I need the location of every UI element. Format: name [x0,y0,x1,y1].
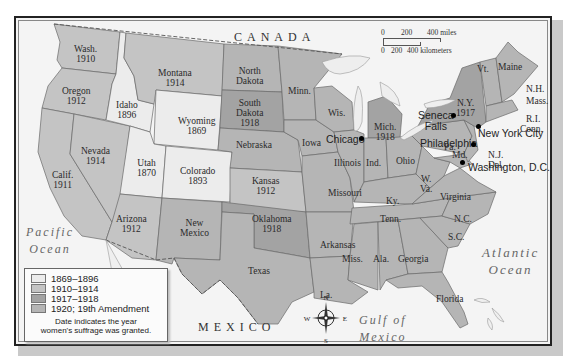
state-label-montana: Montana1914 [158,68,192,88]
city-label-seneca-falls: SenecaFalls [418,110,454,132]
state-label-idaho: Idaho1896 [116,100,138,120]
state-label-kansas: Kansas1912 [252,176,279,196]
state-label-wva: W.Va. [420,174,432,194]
state-label-mich: Mich.1918 [374,122,396,142]
state-label-md: Md. [452,150,468,160]
legend-swatch [31,294,46,303]
state-label-wash: Wash.1910 [74,44,97,64]
state-label-ala: Ala. [373,254,389,264]
ocean-label-pacific: Pacific Ocean [26,224,74,258]
state-label-colorado: Colorado1893 [180,166,215,186]
state-label-ind: Ind. [366,158,381,168]
lake-michigan [354,86,363,131]
svg-text:S: S [324,337,328,344]
svg-text:N: N [323,294,328,302]
state-label-nc: N.C. [454,214,472,224]
state-label-georgia: Georgia [398,254,428,264]
state-label-calif: Calif.1911 [52,170,73,190]
city-dot-washington-dc [460,160,465,165]
city-dot-new-york-city [476,124,481,129]
state-label-oregon: Oregon1912 [62,86,91,106]
state-label-minn: Minn. [288,86,311,96]
compass-rose-icon: N S E W [303,292,349,344]
state-label-ohio: Ohio [396,156,415,166]
state-label-ri: R.I. [526,114,540,124]
state-label-tenn: Tenn. [380,214,401,224]
state-label-arizona: Arizona1912 [116,214,147,234]
state-label-south-dakota: SouthDakota1918 [236,98,263,128]
city-dot-seneca-falls [451,113,456,118]
state-label-wyoming: Wyoming1869 [178,116,215,136]
ocean-label-atlantic: Atlantic Ocean [482,244,539,278]
legend-item: 1869–1896 [31,273,167,283]
legend-swatch [31,274,46,283]
city-dot-chicago [359,136,364,141]
state-label-utah: Utah1870 [137,158,156,178]
country-label-canada: CANADA [234,30,315,45]
city-label-washington-dc: Washington, D.C. [468,162,550,173]
state-label-north-dakota: NorthDakota [236,66,263,86]
state-label-nh: N.H. [526,84,544,94]
state-label-nebraska: Nebraska [236,140,272,150]
state-label-maine: Maine [498,62,522,72]
bahamas [474,298,504,330]
legend-item: 1920; 19th Amendment [31,303,167,313]
state-label-nevada: Nevada1914 [81,146,110,166]
legend-item: 1917–1918 [31,293,167,303]
state-label-missouri: Missouri [328,188,362,198]
state-label-vt: Vt. [477,64,489,74]
city-dot-philadelphia [471,142,476,147]
state-label-miss: Miss. [342,254,363,264]
state-label-nj: N.J. [488,150,503,160]
city-label-philadelphia: Philadelphia [420,138,477,149]
legend: 1869–1896 1910–1914 1917–1918 1920; 19th… [24,268,168,342]
ocean-label-gulf: Gulf of Mexico [359,312,407,346]
state-label-illinois: Illinois [334,158,361,168]
svg-text:E: E [343,315,347,323]
legend-swatch [31,284,46,293]
legend-note: Date indicates the year women's suffrage… [25,317,167,335]
state-label-oklahoma: Oklahoma1918 [252,214,292,234]
state-label-ny: N.Y.1917 [456,98,475,118]
legend-item: 1910–1914 [31,283,167,293]
state-label-sc: S.C. [448,232,464,242]
legend-swatch [31,304,46,313]
state-label-mass: Mass. [526,96,548,106]
state-label-virginia: Virginia [440,192,471,202]
country-label-mexico: MEXICO [198,320,275,335]
svg-text:W: W [304,315,311,323]
state-label-ky: Ky. [386,196,399,206]
state-label-new-mexico: NewMexico [180,218,209,238]
city-label-new-york-city: New York City [478,128,543,139]
state-label-wis: Wis. [328,108,345,118]
state-label-florida: Florida [436,294,463,304]
scale-bar: 0 200 400 miles 0 200 400 kilometers [381,28,491,58]
state-arkansas [306,212,354,258]
state-label-iowa: Iowa [302,138,321,148]
state-label-texas: Texas [248,266,270,276]
state-label-arkansas: Arkansas [320,240,355,250]
